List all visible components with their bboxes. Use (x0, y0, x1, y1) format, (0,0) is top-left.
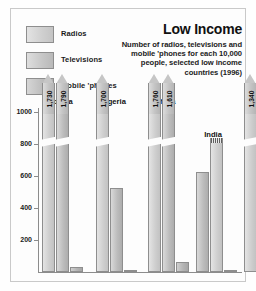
bar-albania-mobile-phones[interactable] (70, 267, 83, 272)
bar-cap-albania-televisions: 1,790 (56, 74, 69, 114)
y-label-400: 400 (2, 204, 32, 211)
x-axis-baseline (38, 272, 242, 273)
bar-group-albania: Albania 1,730 1,790 (42, 108, 76, 272)
axis-break-marker (55, 136, 72, 146)
bar-cap-nigeria-radios: 1,700 (96, 74, 109, 114)
bar-albania-televisions[interactable] (56, 108, 69, 272)
y-label-200: 200 (2, 236, 32, 243)
bar-laos-radios[interactable] (244, 108, 256, 272)
bar-value-nigeria-radios: 1,700 (99, 90, 106, 107)
bar-value-china-radios: 1,760 (151, 90, 158, 107)
bar-china-radios[interactable] (148, 108, 161, 272)
bar-india-televisions[interactable] (196, 172, 209, 272)
bar-china-mobile-phones[interactable] (176, 262, 189, 272)
bar-india-radios[interactable] (210, 138, 223, 272)
bar-nigeria-radios[interactable] (96, 108, 109, 272)
axis-break-marker (95, 136, 112, 146)
bar-value-china-televisions: 1,610 (165, 90, 172, 107)
bar-cap-albania-radios: 1,730 (42, 74, 55, 114)
bar-value-laos-radios: 1,340 (247, 90, 254, 107)
bar-china-televisions[interactable] (162, 108, 175, 272)
bar-value-albania-televisions: 1,790 (59, 90, 66, 107)
y-tick-800 (34, 144, 39, 145)
bar-nigeria-televisions[interactable] (110, 188, 123, 272)
bar-group-nigeria: Nigeria 1,700 (96, 108, 130, 272)
axis-break-marker (243, 136, 256, 146)
plot-area: 1000 800 600 400 200 Albania 1,730 (0, 0, 256, 291)
bar-value-albania-radios: 1,730 (45, 90, 52, 107)
y-label-800: 800 (2, 140, 32, 147)
bar-albania-radios[interactable] (42, 108, 55, 272)
y-tick-1000 (34, 112, 39, 113)
y-tick-400 (34, 208, 39, 209)
y-label-1000: 1000 (2, 108, 32, 115)
y-axis-line (38, 108, 39, 272)
y-label-600: 600 (2, 172, 32, 179)
y-tick-600 (34, 176, 39, 177)
y-tick-200 (34, 240, 39, 241)
bar-group-india: India (196, 108, 230, 272)
bar-cap-laos-radios: 1,340 (244, 74, 256, 114)
bar-group-china: China 1,760 1,610 (148, 108, 182, 272)
bar-nigeria-mobile-phones[interactable] (124, 270, 137, 272)
bar-cap-china-radios: 1,760 (148, 74, 161, 114)
axis-break-marker (161, 136, 178, 146)
bar-india-mobile-phones[interactable] (224, 270, 237, 272)
chart-page: Radios Televisions Mobile 'phones Low In… (0, 0, 256, 291)
bar-cap-india-radios (210, 138, 223, 143)
bar-group-laos: Laos 1,340 (244, 108, 256, 272)
bar-cap-china-televisions: 1,610 (162, 74, 175, 114)
